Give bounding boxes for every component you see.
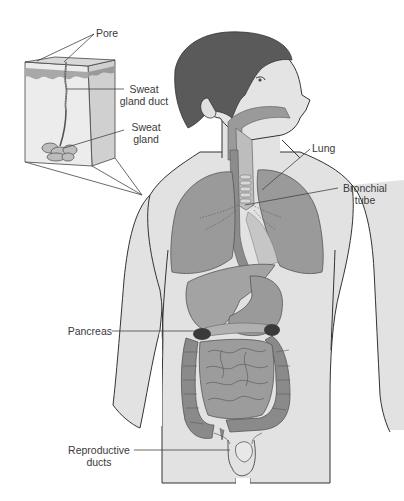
label-sweat-gland-duct-line1: Sweat [116,83,172,95]
skin-inset [25,57,142,195]
label-sweat-gland-duct-line2: gland duct [116,95,172,107]
digestive-system [181,264,290,440]
label-sweat-gland-duct: Sweat gland duct [116,83,172,107]
label-reproductive-ducts-line1: Reproductive [64,444,134,456]
label-bronchial-tube-line1: Bronchial [338,182,392,194]
label-sweat-gland-line1: Sweat [126,121,166,133]
label-pancreas: Pancreas [60,325,112,337]
body-illustration [0,0,404,501]
label-lung: Lung [312,142,335,154]
label-reproductive-ducts-line2: ducts [64,456,134,468]
label-bronchial-tube: Bronchial tube [338,182,392,206]
label-sweat-gland-line2: gland [126,133,166,145]
label-reproductive-ducts: Reproductive ducts [64,444,134,468]
label-bronchial-tube-line2: tube [338,194,392,206]
label-pore: Pore [96,27,118,39]
anatomy-diagram: Pore Sweat gland duct Sweat gland Lung B… [0,0,404,501]
label-sweat-gland: Sweat gland [126,121,166,145]
